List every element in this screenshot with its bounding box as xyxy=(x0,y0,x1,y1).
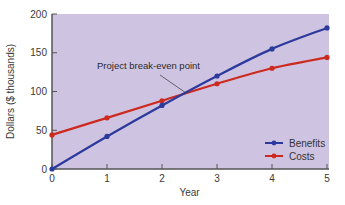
line-chart: 050100150200 012345 Project break-even p… xyxy=(0,0,345,205)
data-point xyxy=(104,115,109,120)
data-point xyxy=(214,73,219,78)
data-point xyxy=(159,103,164,108)
y-tick-label: 0 xyxy=(41,164,47,175)
x-tick-label: 2 xyxy=(159,173,165,184)
y-tick-label: 50 xyxy=(36,125,48,136)
legend-label: Benefits xyxy=(289,138,325,149)
x-tick-label: 3 xyxy=(214,173,220,184)
x-axis-title: Year xyxy=(179,187,200,198)
y-tick-label: 150 xyxy=(30,47,47,58)
y-axis-title: Dollars ($ thousands) xyxy=(5,44,16,139)
y-tick-label: 200 xyxy=(30,9,47,20)
data-point xyxy=(49,166,54,171)
x-tick-label: 0 xyxy=(49,173,55,184)
y-tick-label: 100 xyxy=(30,86,47,97)
data-point xyxy=(324,25,329,30)
legend-label: Costs xyxy=(289,151,315,162)
annotation-label: Project break-even point xyxy=(97,60,200,71)
data-point xyxy=(49,132,54,137)
data-point xyxy=(214,81,219,86)
x-tick-label: 4 xyxy=(269,173,275,184)
data-point xyxy=(324,55,329,60)
data-point xyxy=(104,134,109,139)
x-tick-label: 1 xyxy=(104,173,110,184)
data-point xyxy=(269,46,274,51)
x-tick-label: 5 xyxy=(324,173,330,184)
data-point xyxy=(159,98,164,103)
data-point xyxy=(269,66,274,71)
